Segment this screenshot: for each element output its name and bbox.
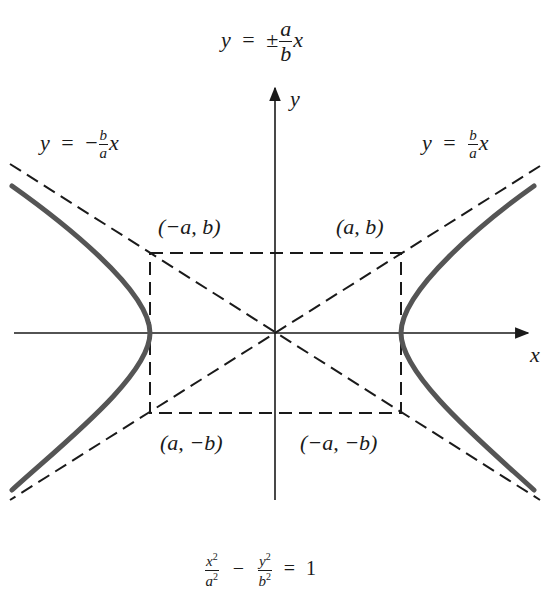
hyperbola-left-branch [12,186,150,490]
y-numerator: y2 [258,552,272,571]
left-lhs: y [40,130,50,155]
right-eq-sign: = [443,130,455,155]
left-denominator: a [100,145,108,161]
corner-label-top-right: (a, b) [336,216,384,238]
x-denominator: a2 [206,571,219,589]
hyperbola-right-branch [401,186,534,490]
hyperbola-equation: x2a2 − y2b2 = 1 [204,552,316,589]
title-equation: y = ±abx [221,18,303,65]
rhs-value: 1 [306,557,316,579]
y-fraction: y2b2 [258,552,272,589]
corner-label-top-left: (−a, b) [158,216,221,238]
hyperbola-diagram [0,0,545,602]
left-minus: − [85,130,97,155]
y-denominator: b2 [259,571,272,589]
title-denominator: b [280,42,291,65]
x-axis-label: x [530,344,540,366]
title-eq-sign: = [242,27,254,52]
title-lhs: y [221,27,231,52]
right-denominator: a [469,145,477,161]
title-pm-sign: ± [266,27,278,52]
left-eq-sign: = [61,130,73,155]
right-numerator: b [468,128,478,145]
right-var: x [479,130,489,155]
title-numerator: a [279,18,292,42]
asymptote-right-label: y = bax [422,128,488,161]
left-var: x [109,130,119,155]
left-numerator: b [99,128,109,145]
minus-sign: − [233,557,244,579]
y-axis-label: y [290,88,300,110]
left-fraction: ba [99,128,109,161]
corner-label-bottom-left: (a, −b) [160,432,223,454]
corner-label-bottom-right: (−a, −b) [300,432,377,454]
equals-sign: = [284,557,295,579]
x-numerator: x2 [205,552,219,571]
right-fraction: ba [468,128,478,161]
x-fraction: x2a2 [205,552,219,589]
asymptote-left-label: y = −bax [40,128,119,161]
title-var: x [293,27,303,52]
title-fraction: ab [279,18,292,65]
right-lhs: y [422,130,432,155]
